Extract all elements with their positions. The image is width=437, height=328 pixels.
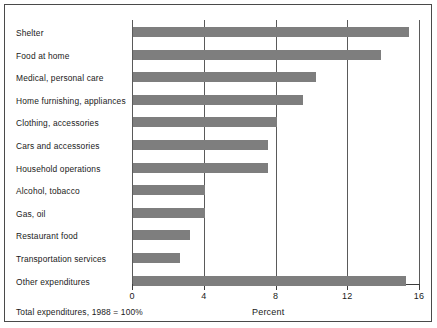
category-label: Food at home	[16, 51, 69, 61]
x-tick-8	[276, 285, 277, 290]
x-axis-title: Percent	[252, 307, 284, 317]
x-tick-label: 12	[332, 291, 362, 301]
category-label: Restaurant food	[16, 231, 78, 241]
bar	[133, 276, 406, 286]
x-tick-label: 4	[189, 291, 219, 301]
gridline-12	[347, 20, 348, 284]
bar	[133, 50, 381, 60]
category-label: Household operations	[16, 164, 100, 174]
x-tick-label: 16	[404, 291, 434, 301]
bar	[133, 185, 205, 195]
x-tick-4	[204, 285, 205, 290]
x-tick-16	[419, 285, 420, 290]
x-tick-label: 8	[261, 291, 291, 301]
category-label: Medical, personal care	[16, 73, 104, 83]
category-label: Shelter	[16, 28, 44, 38]
gridline-16	[419, 20, 420, 284]
category-label: Home furnishing, appliances	[16, 96, 126, 106]
chart-page: 0481216ShelterFood at homeMedical, perso…	[0, 0, 437, 328]
plot-area: 0481216ShelterFood at homeMedical, perso…	[0, 0, 437, 328]
bar	[133, 140, 268, 150]
bar	[133, 253, 180, 263]
bar	[133, 72, 316, 82]
x-tick-12	[347, 285, 348, 290]
category-label: Gas, oil	[16, 209, 46, 219]
category-label: Other expenditures	[16, 277, 90, 287]
category-label: Cars and accessories	[16, 141, 100, 151]
bar	[133, 95, 303, 105]
x-tick-0	[132, 285, 133, 290]
bar	[133, 117, 277, 127]
x-tick-label: 0	[117, 291, 147, 301]
gridline-8	[276, 20, 277, 284]
category-label: Transportation services	[16, 254, 106, 264]
category-label: Alcohol, tobacco	[16, 186, 80, 196]
gridline-4	[204, 20, 205, 284]
gridline-0	[132, 20, 133, 284]
bar	[133, 27, 409, 37]
bar	[133, 163, 268, 173]
footnote: Total expenditures, 1988 = 100%	[16, 307, 143, 317]
bar	[133, 208, 205, 218]
bar	[133, 230, 190, 240]
category-label: Clothing, accessories	[16, 118, 99, 128]
